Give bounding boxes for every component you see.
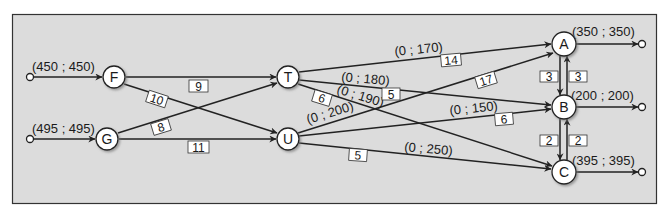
source-terminal-G [27, 136, 34, 143]
svg-text:A: A [559, 36, 569, 52]
node-G: G [96, 128, 118, 150]
node-T: T [277, 66, 299, 88]
svg-text:F: F [110, 69, 119, 85]
node-A: A [552, 32, 576, 56]
svg-text:5: 5 [354, 148, 362, 162]
node-U: U [277, 128, 299, 150]
demand-label-B: (200 ; 200) [571, 88, 634, 103]
svg-text:9: 9 [195, 80, 202, 94]
svg-text:U: U [283, 131, 293, 147]
svg-text:3: 3 [546, 70, 553, 84]
cost-box-T-B: 5 [382, 88, 400, 102]
sink-terminal-C [639, 169, 646, 176]
svg-text:2: 2 [575, 134, 582, 148]
sink-terminal-B [639, 104, 646, 111]
svg-text:T: T [284, 69, 293, 85]
sink-terminal-A [639, 41, 646, 48]
supply-label-G: (495 ; 495) [32, 121, 95, 136]
cost-box-G-U: 11 [188, 141, 209, 155]
svg-text:5: 5 [388, 88, 395, 102]
cost-box-A-B: 3 [540, 70, 558, 84]
svg-text:3: 3 [575, 70, 582, 84]
cost-box-F-T: 9 [189, 80, 208, 94]
cost-box-B-A: 3 [569, 70, 587, 84]
svg-text:11: 11 [192, 141, 205, 155]
svg-text:B: B [559, 99, 568, 115]
node-C: C [552, 160, 576, 184]
source-terminal-F [27, 74, 34, 81]
cost-box-U-C: 5 [348, 148, 367, 163]
svg-text:14: 14 [444, 53, 459, 68]
svg-text:C: C [559, 164, 569, 180]
demand-label-A: (350 ; 350) [572, 24, 635, 39]
svg-text:G: G [102, 131, 113, 147]
cost-box-B-C: 2 [540, 134, 558, 148]
demand-label-C: (395 ; 395) [572, 153, 635, 168]
cost-box-C-B: 2 [569, 134, 587, 148]
node-F: F [103, 66, 125, 88]
network-diagram: (450 ; 450) (495 ; 495) (350 ; 350) (200… [0, 0, 665, 215]
supply-label-F: (450 ; 450) [32, 59, 95, 74]
svg-text:2: 2 [546, 134, 553, 148]
node-B: B [552, 95, 576, 119]
